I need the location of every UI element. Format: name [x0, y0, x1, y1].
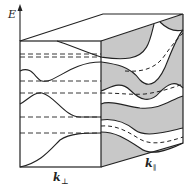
- k-perp-label: k: [53, 171, 61, 184]
- front-face: [20, 41, 101, 167]
- band-structure-diagram: E k ⊥ k ∥: [0, 0, 193, 189]
- arrow-up-icon: [18, 4, 23, 11]
- k-par-label: k: [145, 157, 153, 170]
- k-perp-subscript: ⊥: [61, 177, 69, 186]
- energy-axis: E: [7, 4, 23, 41]
- k-par-subscript: ∥: [153, 164, 156, 172]
- energy-label: E: [7, 8, 16, 21]
